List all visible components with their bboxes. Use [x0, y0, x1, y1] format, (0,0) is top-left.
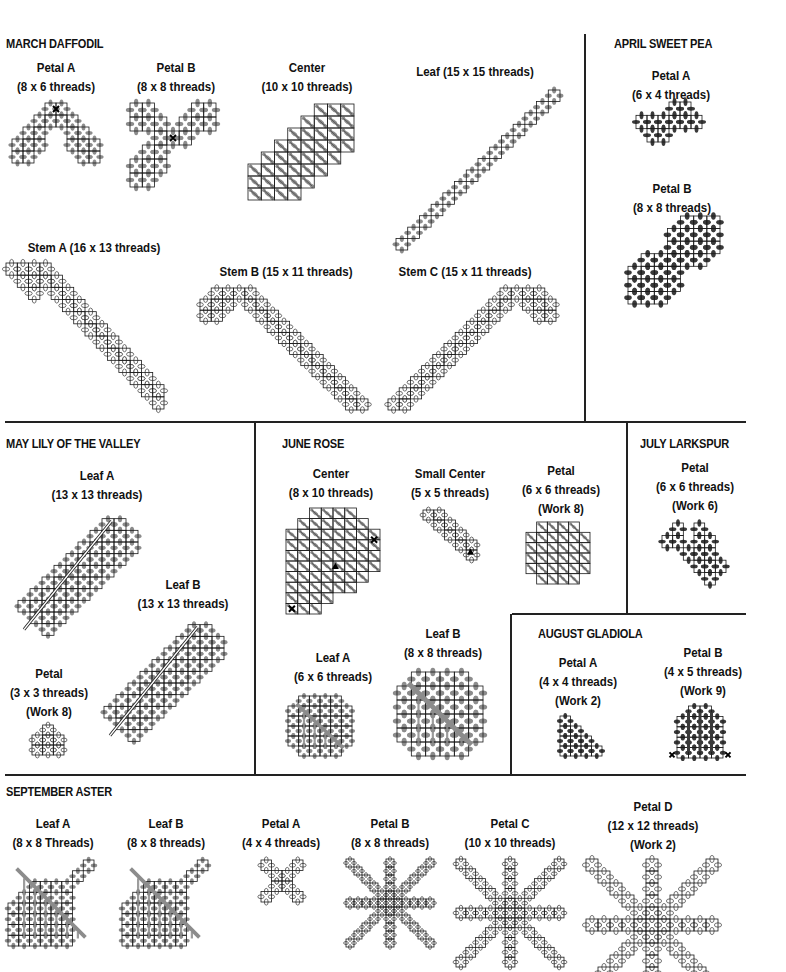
motif-name: Petal B	[351, 815, 429, 834]
motif-dimensions: (4 x 4 threads)	[242, 834, 320, 853]
stitch-diagram-july-petal	[662, 523, 726, 585]
stitch-diagram-june-small-center	[423, 510, 477, 560]
section-title-april: APRIL SWEET PEA	[614, 37, 712, 51]
motif-name: Petal	[656, 459, 734, 478]
motif-name: Center	[262, 59, 353, 78]
motif-caption: Small Center(5 x 5 threads)	[411, 465, 489, 503]
stitch-diagram-june-center	[286, 508, 380, 614]
motif-caption: Stem A (16 x 13 threads)	[28, 239, 161, 258]
section-title-july: JULY LARKSPUR	[640, 437, 729, 451]
motif-dimensions: (8 x 8 threads)	[351, 834, 429, 853]
motif-name: Leaf A	[52, 467, 143, 486]
motif-label: Leaf (15 x 15 threads)	[416, 63, 534, 82]
stitch-diagram-may-leaf-b	[92, 613, 236, 753]
motif-caption: Petal A(8 x 6 threads)	[17, 59, 95, 97]
motif-name: Petal B	[633, 180, 711, 199]
motif-dimensions: (10 x 10 threads)	[262, 78, 353, 97]
motif-caption: Petal(6 x 6 threads)(Work 8)	[522, 462, 600, 519]
motif-name: Leaf B	[127, 815, 205, 834]
section-title-march: MARCH DAFFODIL	[6, 37, 103, 51]
stitch-diagram-april-petal-a	[636, 102, 702, 142]
motif-dimensions: (12 x 12 threads)	[608, 817, 699, 836]
motif-name: Petal B	[137, 59, 215, 78]
motif-work-count: (Work 9)	[664, 682, 742, 701]
motif-caption: Center(10 x 10 threads)	[262, 59, 353, 97]
motif-dimensions: (6 x 6 threads)	[294, 668, 372, 687]
stitch-diagram-september-petal-c	[456, 859, 564, 967]
motif-caption: Petal A(6 x 4 threads)	[632, 67, 710, 105]
motif-label: Stem C (15 x 11 threads)	[399, 263, 532, 282]
motif-name: Leaf B	[138, 576, 229, 595]
stitch-diagram-september-petal-b	[346, 859, 434, 947]
stitch-diagram-march-petal-a	[12, 103, 100, 163]
motif-name: Petal A	[632, 67, 710, 86]
motif-name: Leaf A	[294, 649, 372, 668]
motif-caption: Petal C(10 x 10 threads)	[465, 815, 556, 853]
motif-label: Stem A (16 x 13 threads)	[28, 239, 161, 258]
motif-work-count: (Work 8)	[10, 703, 88, 722]
motif-name: Small Center	[411, 465, 489, 484]
divider-vertical	[254, 422, 256, 775]
motif-dimensions: (8 x 8 threads)	[137, 78, 215, 97]
motif-caption: Center(8 x 10 threads)	[289, 465, 373, 503]
motif-work-count: (Work 2)	[608, 836, 699, 855]
divider-vertical	[626, 422, 628, 614]
motif-dimensions: (10 x 10 threads)	[465, 834, 556, 853]
motif-caption: Petal B(4 x 5 threads)(Work 9)	[664, 644, 742, 701]
motif-dimensions: (13 x 13 threads)	[138, 595, 229, 614]
motif-work-count: (Work 6)	[656, 497, 734, 516]
motif-caption: Petal A(4 x 4 threads)	[242, 815, 320, 853]
divider-vertical	[510, 614, 512, 775]
motif-label: Stem B (15 x 11 threads)	[220, 263, 353, 282]
stitch-diagram-march-stem-b	[200, 288, 368, 410]
stitch-diagram-april-petal-b	[628, 216, 720, 304]
motif-caption: Leaf B(13 x 13 threads)	[138, 576, 229, 614]
section-title-may: MAY LILY OF THE VALLEY	[6, 437, 140, 451]
motif-caption: Petal B(8 x 8 threads)	[633, 180, 711, 218]
motif-name: Petal	[522, 462, 600, 481]
stitch-diagram-march-leaf	[396, 90, 560, 250]
motif-dimensions: (13 x 13 threads)	[52, 486, 143, 505]
motif-caption: Leaf A(8 x 8 Threads)	[12, 815, 93, 853]
motif-work-count: (Work 2)	[539, 692, 617, 711]
motif-caption: Leaf A(13 x 13 threads)	[52, 467, 143, 505]
section-title-september: SEPTEMBER ASTER	[6, 785, 112, 799]
motif-caption: Petal A(4 x 4 threads)(Work 2)	[539, 654, 617, 711]
stitch-diagram-march-center	[248, 104, 354, 200]
motif-name: Petal C	[465, 815, 556, 834]
motif-name: Leaf A	[12, 815, 93, 834]
motif-caption: Petal(6 x 6 threads)(Work 6)	[656, 459, 734, 516]
motif-name: Leaf B	[404, 625, 482, 644]
divider-horizontal	[5, 421, 746, 423]
stitch-diagram-september-petal-a	[261, 860, 303, 902]
motif-dimensions: (5 x 5 threads)	[411, 484, 489, 503]
motif-name: Petal A	[17, 59, 95, 78]
stitch-diagram-march-petal-b	[130, 103, 216, 187]
motif-dimensions: (4 x 5 threads)	[664, 663, 742, 682]
divider-vertical	[584, 34, 586, 422]
motif-caption: Leaf (15 x 15 threads)	[416, 63, 534, 82]
stitch-diagram-september-leaf-b	[122, 860, 208, 946]
motif-work-count: (Work 8)	[522, 500, 600, 519]
motif-name: Petal	[10, 665, 88, 684]
motif-caption: Stem B (15 x 11 threads)	[220, 263, 353, 282]
motif-caption: Leaf B(8 x 8 threads)	[404, 625, 482, 663]
stitch-diagram-august-petal-b	[677, 706, 723, 758]
motif-caption: Leaf B(8 x 8 threads)	[127, 815, 205, 853]
stitch-diagram-june-leaf-b	[397, 672, 483, 756]
motif-name: Petal D	[608, 798, 699, 817]
motif-dimensions: (8 x 8 Threads)	[12, 834, 93, 853]
stitch-diagram-march-stem-c	[388, 288, 556, 410]
divider-horizontal	[5, 774, 746, 776]
motif-caption: Leaf A(6 x 6 threads)	[294, 649, 372, 687]
motif-name: Petal A	[242, 815, 320, 834]
section-title-june: JUNE ROSE	[282, 437, 344, 451]
motif-name: Petal B	[664, 644, 742, 663]
stitch-diagram-september-petal-d	[586, 859, 718, 972]
motif-name: Petal A	[539, 654, 617, 673]
stitch-diagram-june-petal	[526, 522, 590, 584]
motif-caption: Petal B(8 x 8 threads)	[137, 59, 215, 97]
stitch-diagram-may-petal	[32, 725, 64, 755]
motif-dimensions: (3 x 3 threads)	[10, 684, 88, 703]
motif-dimensions: (6 x 6 threads)	[522, 481, 600, 500]
